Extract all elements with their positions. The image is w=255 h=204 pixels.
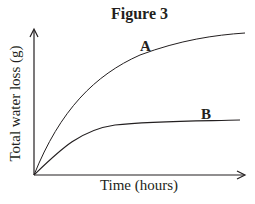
y-axis: [30, 29, 38, 175]
y-axis-label: Total water loss (g): [7, 34, 24, 174]
curve-b: [34, 120, 240, 175]
curve-b-label: B: [201, 106, 211, 123]
curve-a-label: A: [140, 38, 151, 55]
x-axis-label: Time (hours): [34, 177, 244, 194]
plot-area: [0, 0, 255, 204]
